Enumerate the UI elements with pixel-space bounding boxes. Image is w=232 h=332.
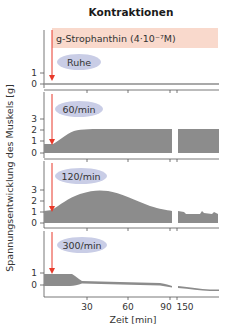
x-tick: 90 bbox=[160, 302, 172, 312]
x-tick: 60 bbox=[122, 302, 134, 312]
y-tick: 1 bbox=[31, 68, 37, 78]
x-tick: 30 bbox=[81, 302, 93, 312]
y-tick: 1 bbox=[31, 207, 37, 217]
contraction-chart: Kontraktionen g-Strophanthin (4·10⁻⁷M) S… bbox=[0, 0, 232, 332]
trace-300-per-min bbox=[44, 274, 219, 291]
panel-label: 300/min bbox=[62, 240, 101, 251]
y-tick: 2 bbox=[31, 125, 37, 135]
panel-label: 60/min bbox=[62, 104, 95, 115]
trace-120-per-min bbox=[44, 190, 218, 223]
x-axis-label: Zeit [min] bbox=[109, 314, 156, 325]
y-tick: 1 bbox=[31, 268, 37, 278]
y-tick: 3 bbox=[31, 185, 37, 195]
y-axis-label: Spannungsentwicklung des Muskels [g] bbox=[4, 84, 15, 271]
x-tick: 150 bbox=[176, 302, 193, 312]
panel-label: Ruhe bbox=[67, 57, 91, 68]
y-tick: 0 bbox=[31, 79, 37, 89]
chart-title: Kontraktionen bbox=[89, 6, 174, 18]
drug-annotation-label: g-Strophanthin (4·10⁻⁷M) bbox=[56, 33, 176, 44]
y-tick: 2 bbox=[31, 196, 37, 206]
y-tick: 3 bbox=[31, 114, 37, 124]
y-tick: 1 bbox=[31, 136, 37, 146]
panel-300-per-min: 1 0 300/min 30 60 90 150 Zeit [min] bbox=[31, 231, 219, 325]
y-tick: 0 bbox=[31, 218, 37, 228]
panel-120-per-min: 3 2 1 0 120/min bbox=[31, 161, 219, 231]
panel-60-per-min: 3 2 1 0 60/min bbox=[31, 92, 219, 162]
y-tick: 0 bbox=[31, 280, 37, 290]
trace-60-per-min bbox=[44, 129, 219, 153]
y-tick: 0 bbox=[31, 148, 37, 158]
panel-label: 120/min bbox=[61, 171, 100, 182]
